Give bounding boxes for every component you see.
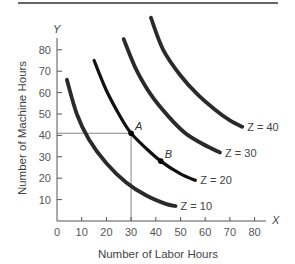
axes: 010203040506070801020304050607080 <box>39 38 266 238</box>
points: AB <box>128 120 172 164</box>
x-tick-label: 20 <box>100 226 112 238</box>
y-tick-label: 70 <box>39 65 51 77</box>
point-marker <box>128 130 134 136</box>
y-tick-label: 10 <box>39 194 51 206</box>
point-label: B <box>165 148 172 160</box>
isoquant-curve <box>94 61 195 181</box>
y-tick-label: 80 <box>39 44 51 56</box>
y-tick-label: 30 <box>39 151 51 163</box>
curve-label: Z = 20 <box>200 174 232 186</box>
curve-label: Z = 30 <box>225 147 257 159</box>
x-tick-label: 30 <box>125 226 137 238</box>
y-tick-label: 60 <box>39 87 51 99</box>
x-tick-label: 10 <box>76 226 88 238</box>
curves: Z = 10Z = 20Z = 30Z = 40 <box>67 18 279 212</box>
point-label: A <box>134 120 142 132</box>
x-tick-label: 40 <box>150 226 162 238</box>
x-axis-letter: X <box>271 214 280 226</box>
x-tick-label: 60 <box>199 226 211 238</box>
x-tick-label: 70 <box>224 226 236 238</box>
y-tick-label: 20 <box>39 172 51 184</box>
x-axis-title: Number of Labor Hours <box>98 248 218 260</box>
point-marker <box>158 158 164 164</box>
y-axis-title: Number of Machine Hours <box>16 61 28 195</box>
y-tick-label: 50 <box>39 108 51 120</box>
y-tick-label: 40 <box>39 129 51 141</box>
isoquant-curve <box>67 80 176 206</box>
y-axis-letter: Y <box>53 23 61 35</box>
curve-label: Z = 40 <box>247 121 279 133</box>
x-tick-label: 80 <box>248 226 260 238</box>
isoquant-curve <box>124 39 220 152</box>
x-tick-label: 0 <box>54 226 60 238</box>
curve-label: Z = 10 <box>181 200 213 212</box>
isoquant-chart: 010203040506070801020304050607080 Z = 10… <box>0 0 295 264</box>
x-tick-label: 50 <box>174 226 186 238</box>
